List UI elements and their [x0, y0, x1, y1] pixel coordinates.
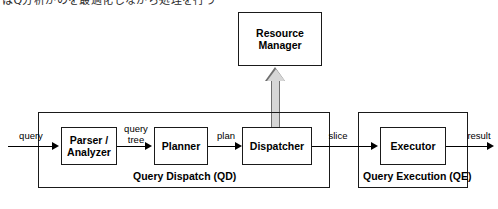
- node-dispatcher: Dispatcher: [242, 127, 312, 165]
- edge-line-slice: [312, 146, 374, 147]
- edge-line-result: [446, 146, 490, 147]
- edge-label-plan-line1: plan: [211, 131, 241, 142]
- node-dispatcher-label: Dispatcher: [250, 140, 304, 152]
- node-resource-manager-line2: Manager: [256, 39, 304, 51]
- node-parser-analyzer: Parser / Analyzer: [61, 127, 117, 165]
- edge-label-query: query: [14, 131, 48, 142]
- cropped-caption-text: はQ分析がのを最適化しながら処理を行う: [0, 0, 498, 9]
- node-resource-manager-line1: Resource: [256, 27, 304, 39]
- edge-label-slice-line1: slice: [320, 131, 356, 142]
- node-resource-manager-label: Resource Manager: [256, 27, 304, 52]
- node-parser-analyzer-label: Parser / Analyzer: [67, 134, 111, 159]
- group-query-execution-label: Query Execution (QE): [363, 170, 472, 182]
- edge-arrowhead-plan: [235, 142, 242, 150]
- architecture-diagram: はQ分析がのを最適化しながら処理を行う Resource Manager Que…: [0, 0, 498, 209]
- edge-arrowhead-query-tree: [145, 142, 152, 150]
- edge-label-query-line1: query: [14, 131, 48, 142]
- node-executor-line1: Executor: [391, 140, 436, 152]
- edge-arrowhead-result: [487, 142, 494, 150]
- node-planner: Planner: [154, 127, 208, 165]
- edge-line-query: [8, 146, 54, 147]
- node-parser-analyzer-line1: Parser /: [67, 134, 111, 146]
- node-dispatcher-line1: Dispatcher: [250, 140, 304, 152]
- edge-label-slice: slice: [320, 131, 356, 142]
- node-executor-label: Executor: [391, 140, 436, 152]
- cropped-caption-label: はQ分析がのを最適化しながら処理を行う: [2, 0, 216, 7]
- node-resource-manager: Resource Manager: [238, 12, 322, 66]
- node-planner-line1: Planner: [162, 140, 201, 152]
- edge-label-result: result: [461, 131, 497, 142]
- edge-label-result-line1: result: [461, 131, 497, 142]
- edge-arrowhead-slice: [371, 142, 378, 150]
- node-executor: Executor: [380, 127, 446, 165]
- thick-arrow-head: [267, 69, 285, 81]
- edge-label-plan: plan: [211, 131, 241, 142]
- edge-line-plan: [208, 146, 238, 147]
- group-query-dispatch-label: Query Dispatch (QD): [133, 170, 236, 182]
- node-parser-analyzer-line2: Analyzer: [67, 146, 111, 158]
- node-planner-label: Planner: [162, 140, 201, 152]
- edge-arrowhead-query: [52, 142, 59, 150]
